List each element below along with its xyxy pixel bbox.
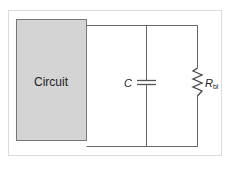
resistor-icon bbox=[193, 68, 202, 96]
resistor-label: Rbl bbox=[205, 77, 219, 90]
wires bbox=[87, 26, 198, 147]
capacitor-label: C bbox=[124, 77, 132, 89]
resistor: Rbl bbox=[193, 68, 219, 96]
top-wire bbox=[87, 26, 198, 69]
circuit-block: Circuit bbox=[17, 20, 87, 141]
circuit-label: Circuit bbox=[34, 75, 69, 89]
capacitor-icon bbox=[137, 81, 156, 85]
capacitor: C bbox=[124, 77, 156, 89]
bottom-wire bbox=[87, 96, 198, 147]
circuit-diagram: Circuit C Rbl bbox=[0, 0, 234, 172]
